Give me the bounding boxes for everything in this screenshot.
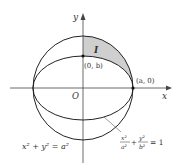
region-label: I	[93, 45, 99, 55]
ellipse-rhs: = 1	[150, 138, 163, 147]
ellipse-y-denominator: b²	[139, 143, 146, 150]
point-0-b	[81, 54, 84, 57]
ellipse-x-numerator: x²	[121, 134, 127, 141]
diagram-canvas: y x O (0, b) (a, 0) I x² + y² = a² x² a²…	[0, 0, 178, 163]
x-axis-arrow-icon	[166, 86, 172, 91]
point-a-0	[131, 86, 134, 89]
y-axis-label: y	[72, 12, 79, 22]
ellipse-plus: +	[131, 139, 137, 147]
x-axis-label: x	[162, 91, 167, 101]
y-axis-arrow-icon	[81, 13, 86, 20]
circle-equation: x² + y² = a²	[22, 142, 69, 151]
ellipse-x-denominator: a²	[121, 143, 128, 150]
ellipse-equation: x² a² + y² b² = 1	[120, 134, 163, 150]
ellipse-y-numerator: y²	[138, 134, 145, 142]
point-0-b-label: (0, b)	[84, 62, 103, 70]
origin-label: O	[72, 91, 79, 101]
point-a-0-label: (a, 0)	[136, 77, 155, 85]
